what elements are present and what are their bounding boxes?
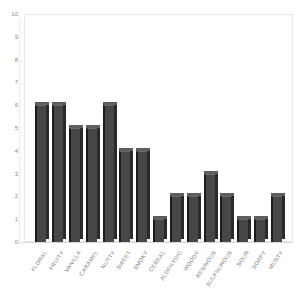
bar-top-face <box>237 216 251 219</box>
bar-top-face <box>69 125 83 128</box>
bar-side-face <box>181 196 184 239</box>
bar[interactable] <box>136 151 147 242</box>
bar-side-face <box>231 196 234 239</box>
bar-slot <box>202 14 219 242</box>
bar[interactable] <box>69 128 80 242</box>
bar[interactable] <box>170 196 181 242</box>
y-axis-tick-label: 7 <box>15 79 18 85</box>
bar-top-face <box>103 102 117 105</box>
bar-slot <box>235 14 252 242</box>
bar-side-face <box>46 105 49 239</box>
bar-slot <box>134 14 151 242</box>
bar-slot <box>84 14 101 242</box>
bar-top-face <box>187 193 201 196</box>
bar[interactable] <box>153 219 164 242</box>
y-axis-tick-label: 9 <box>15 34 18 40</box>
bar-slot <box>101 14 118 242</box>
bar-side-face <box>147 151 150 239</box>
bar-top-face <box>254 216 268 219</box>
y-axis-tick-label: 0 <box>15 239 18 245</box>
y-axis-tick-label: 8 <box>15 57 18 63</box>
bar-side-face <box>248 219 251 239</box>
bar-slot <box>50 14 67 242</box>
bar-slot <box>218 14 235 242</box>
bar-side-face <box>63 105 66 239</box>
x-axis-tick-label: SOAPY <box>251 250 267 270</box>
bar[interactable] <box>52 105 63 242</box>
bar-side-face <box>282 196 285 239</box>
bar-top-face <box>35 102 49 105</box>
bar-top-face <box>153 216 167 219</box>
bar[interactable] <box>86 128 97 242</box>
x-axis-labels: FLORALFRUITYVANILLACARAMELNUTTYSWEETSMOK… <box>24 250 293 306</box>
bar-top-face <box>220 193 234 196</box>
y-axis-tick-label: 6 <box>15 102 18 108</box>
x-axis-tick-label: SWEET <box>117 250 134 271</box>
x-axis-tick-label: SOUR <box>236 250 250 268</box>
bar-side-face <box>97 128 100 239</box>
bar[interactable] <box>35 105 46 242</box>
bar-side-face <box>198 196 201 239</box>
bar-side-face <box>265 219 268 239</box>
bar-top-face <box>204 171 218 174</box>
bar-slot <box>151 14 168 242</box>
bar-top-face <box>86 125 100 128</box>
y-axis-tick-label: 3 <box>15 171 18 177</box>
bar[interactable] <box>220 196 231 242</box>
bar-slot <box>252 14 269 242</box>
bar-slot <box>185 14 202 242</box>
bars-container <box>24 14 293 242</box>
bar-top-face <box>170 193 184 196</box>
y-axis-tick-label: 10 <box>11 11 18 17</box>
bar-slot <box>33 14 50 242</box>
y-axis-tick-label: 4 <box>15 148 18 154</box>
x-axis-tick-label: FLORAL <box>31 250 49 273</box>
bar-slot <box>67 14 84 242</box>
bar-side-face <box>130 151 133 239</box>
bar-chart: 109876543210 FLORALFRUITYVANILLACARAMELN… <box>0 0 297 306</box>
bar[interactable] <box>237 219 248 242</box>
y-axis-tick-label: 2 <box>15 193 18 199</box>
bar-side-face <box>164 219 167 239</box>
bar-side-face <box>215 174 218 239</box>
bar[interactable] <box>119 151 130 242</box>
bar-slot <box>269 14 286 242</box>
bar-slot <box>168 14 185 242</box>
bar[interactable] <box>271 196 282 242</box>
x-axis-line <box>24 242 293 243</box>
y-axis-tick-label: 5 <box>15 125 18 131</box>
x-axis-tick-label: MUSTY <box>268 250 284 271</box>
bar[interactable] <box>204 174 215 242</box>
bar[interactable] <box>103 105 114 242</box>
bar-top-face <box>271 193 285 196</box>
bar[interactable] <box>254 219 265 242</box>
bar-top-face <box>52 102 66 105</box>
bar-side-face <box>114 105 117 239</box>
bar[interactable] <box>187 196 198 242</box>
y-axis: 109876543210 <box>0 14 20 242</box>
bar-top-face <box>136 148 150 151</box>
bar-top-face <box>119 148 133 151</box>
bar-slot <box>117 14 134 242</box>
bar-side-face <box>80 128 83 239</box>
y-axis-tick-label: 1 <box>15 216 18 222</box>
